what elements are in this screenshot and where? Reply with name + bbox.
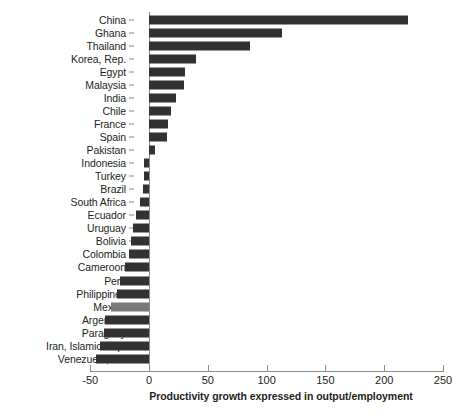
bar-row: Argentina [0,313,468,326]
bar-row: Cameroon [0,261,468,274]
category-tick [129,97,134,98]
x-axis-tick-label: 150 [316,374,334,387]
bar-row: Malaysia [0,78,468,91]
bar-row: Ghana [0,26,468,39]
category-label: South Africa [71,197,126,208]
category-label: Bolivia [96,236,126,247]
bar-row: Egypt [0,65,468,78]
x-axis-tick-label: 0 [146,374,152,387]
bar-row: Korea, Rep. [0,52,468,65]
bar-row: Philippines [0,287,468,300]
bar [117,289,149,298]
bar [149,119,168,128]
x-axis-tick-label: 200 [375,374,393,387]
category-tick [129,71,134,72]
category-label: Uruguay [87,223,126,234]
x-axis-tick [443,365,444,371]
category-tick [129,163,134,164]
category-tick [129,58,134,59]
bar [149,106,171,115]
x-axis-title-text: Productivity growth expressed in output/… [149,390,413,402]
category-label: Korea, Rep. [71,53,126,64]
bar [111,302,149,311]
bar-row: Chile [0,104,468,117]
bar [149,67,185,76]
x-axis-tick [267,365,268,371]
bar [131,237,149,246]
x-axis-tick [90,365,91,371]
bar-row: Turkey [0,170,468,183]
bar-row: France [0,117,468,130]
category-tick [129,189,134,190]
category-label: Brazil [100,184,126,195]
bar [129,250,149,259]
bar [140,198,149,207]
x-axis-title: Productivity growth expressed in output/… [0,390,468,402]
category-tick [129,176,134,177]
bar-row: South Africa [0,196,468,209]
bar [136,211,149,220]
category-tick [129,136,134,137]
category-tick [129,150,134,151]
bar [100,341,149,350]
category-tick [129,84,134,85]
category-label: Chile [103,105,126,116]
x-axis-tick-label: 100 [257,374,275,387]
x-axis-tick [149,365,150,371]
bar [105,315,149,324]
bar [149,15,408,24]
category-tick [129,110,134,111]
bar [104,328,149,337]
category-tick [129,45,134,46]
bar [96,354,149,363]
bar-row: Venezuela, RB [0,352,468,365]
bar [125,263,149,272]
x-axis-tick-label: -50 [82,374,98,387]
category-label: Spain [100,131,126,142]
category-tick [129,32,134,33]
bar [149,132,167,141]
bar [144,172,149,181]
category-label: Egypt [100,66,126,77]
bar-row: Bolivia [0,235,468,248]
bar-row: Colombia [0,248,468,261]
x-axis-line [90,371,444,372]
category-label: Pakistan [87,145,126,156]
x-axis-tick-label: 250 [434,374,452,387]
x-axis-tick [384,365,385,371]
category-tick [129,19,134,20]
bar-row: Uruguay [0,222,468,235]
bar-row: Mexico [0,300,468,313]
bar [133,224,149,233]
bar [149,93,176,102]
bar-row: India [0,91,468,104]
bar [143,185,149,194]
bar [149,54,196,63]
x-axis-tick [325,365,326,371]
category-tick [129,202,134,203]
category-tick [129,215,134,216]
category-label: Ghana [95,27,126,38]
category-tick [129,123,134,124]
bar-row: Indonesia [0,157,468,170]
bar [149,28,282,37]
bar-row: China [0,13,468,26]
productivity-growth-bar-chart: ChinaGhanaThailandKorea, Rep.EgyptMalays… [0,0,468,419]
x-axis-tick [208,365,209,371]
category-label: Colombia [82,249,126,260]
bar-row: Peru [0,274,468,287]
bar [149,146,155,155]
bar-row: Iran, Islamic Rep. [0,339,468,352]
category-label: France [94,118,126,129]
category-label: Thailand [87,40,126,51]
bar-row: Brazil [0,183,468,196]
category-label: Cameroon [78,262,126,273]
category-label: China [99,14,126,25]
category-label: India [104,92,126,103]
bar-row: Pakistan [0,144,468,157]
bar-row: Spain [0,130,468,143]
bar [120,276,149,285]
bar-row: Paraguay [0,326,468,339]
bar-row: Thailand [0,39,468,52]
category-label: Malaysia [85,79,126,90]
